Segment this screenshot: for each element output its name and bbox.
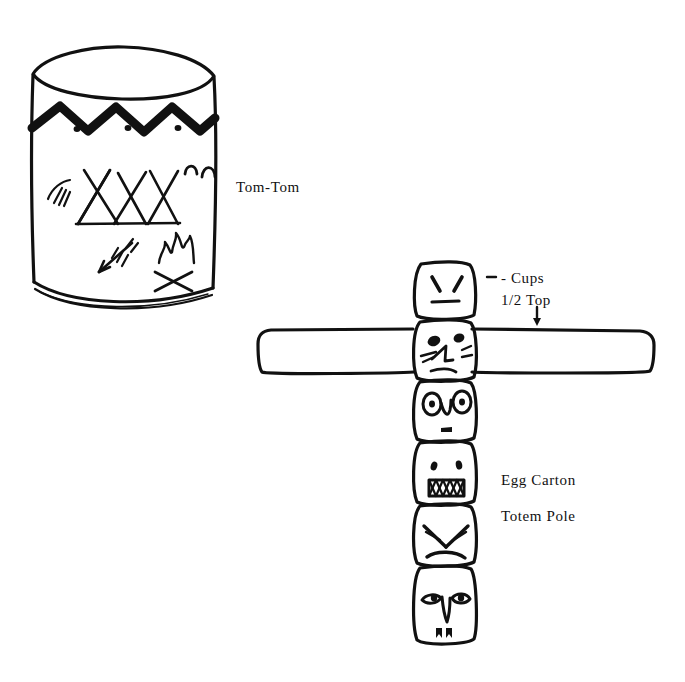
label-half-top: 1/2 Top <box>501 292 551 309</box>
totem-block-3 <box>414 380 477 442</box>
totem-wing-left <box>258 329 414 374</box>
drum-zigzag-dot-3 <box>175 125 182 131</box>
totem-block-2 <box>414 320 477 381</box>
half-top-down-arrow <box>533 307 541 326</box>
label-totem-pole: Totem Pole <box>501 508 576 525</box>
totem-wing-right <box>472 329 654 373</box>
drum-left-side <box>32 75 34 282</box>
drum-hills-motif <box>185 166 215 177</box>
drum-zigzag-dot-2 <box>125 125 132 131</box>
illustration-canvas <box>0 0 685 682</box>
drum-teepee-motif <box>76 170 180 224</box>
drum-campfire-motif <box>155 233 194 291</box>
drum-zigzag-band <box>32 106 215 132</box>
label-tom-tom: Tom-Tom <box>236 179 300 196</box>
drum-right-side <box>213 77 216 288</box>
drum-zigzag-dot-1 <box>74 126 81 132</box>
totem-block-4 <box>414 441 477 505</box>
drum-bottom-rim-inner <box>35 289 212 308</box>
totem-block-1 <box>414 262 475 319</box>
totem-block-5 <box>414 504 477 566</box>
tom-tom-drawing <box>32 47 216 308</box>
label-cups: - Cups <box>501 270 544 287</box>
drum-feather-motif <box>48 180 70 206</box>
totem-block-6 <box>414 566 477 644</box>
totem-pole-drawing <box>258 262 654 644</box>
drum-top-rim <box>33 47 214 99</box>
drum-arrow-motif <box>99 239 138 272</box>
drum-bottom-rim-outer <box>34 282 213 302</box>
label-egg-carton: Egg Carton <box>501 472 576 489</box>
